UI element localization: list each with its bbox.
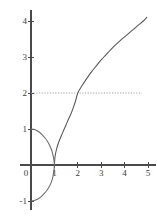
y-axis-label-2: 2 [0, 89, 27, 98]
x-axis-label-0: 0 [24, 169, 29, 178]
x-axis-label-2: 2 [76, 169, 81, 178]
data-series [31, 17, 147, 201]
y-axis-label--1: -1 [0, 197, 27, 206]
series-main-curve [54, 17, 146, 165]
chart-figure: 012345 -11234 [0, 0, 157, 220]
x-axis-label-5: 5 [146, 169, 151, 178]
y-axis-label-1: 1 [0, 125, 27, 134]
x-axis-label-4: 4 [122, 169, 127, 178]
axes-group [20, 10, 156, 210]
plot-area [0, 0, 157, 220]
y-axis-label-3: 3 [0, 53, 27, 62]
x-axis-label-3: 3 [99, 169, 104, 178]
x-axis-label-1: 1 [52, 169, 57, 178]
y-axis-label-4: 4 [0, 17, 27, 26]
